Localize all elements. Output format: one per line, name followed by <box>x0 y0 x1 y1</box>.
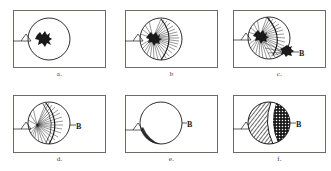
point-a-marker <box>133 34 143 41</box>
source-blob-a <box>35 31 52 47</box>
point-b-label: B <box>187 120 193 129</box>
point-b-label: B <box>76 122 82 131</box>
panel-e-stage: B <box>125 95 218 153</box>
panel-e-caption: e. <box>125 155 218 163</box>
panel-d: B d. <box>13 95 106 153</box>
figure-six-panel-diagram: a. <box>0 0 331 171</box>
point-a-marker <box>21 34 31 41</box>
panel-f: B f. <box>233 95 326 153</box>
point-b-label: B <box>299 49 305 58</box>
panel-e: B e. <box>125 95 218 153</box>
boundary-circle <box>140 102 182 144</box>
point-a-marker <box>21 122 31 129</box>
panel-c-caption: c. <box>233 70 326 78</box>
panel-a-caption: a. <box>13 70 106 78</box>
point-b-label: B <box>296 120 302 129</box>
panel-b-caption: b <box>125 70 218 78</box>
receiver-blob-b <box>280 45 294 57</box>
panel-a-stage <box>13 10 106 68</box>
panel-d-stage: B <box>13 95 106 153</box>
panel-b: b <box>125 10 218 68</box>
point-a-marker <box>241 33 251 40</box>
panel-d-caption: d. <box>13 155 106 163</box>
panel-f-stage: B <box>233 95 326 153</box>
panel-f-caption: f. <box>233 155 326 163</box>
panel-c-stage: B <box>233 10 326 68</box>
panel-b-stage <box>125 10 218 68</box>
panel-a: a. <box>13 10 106 68</box>
panel-c: B c. <box>233 10 326 68</box>
